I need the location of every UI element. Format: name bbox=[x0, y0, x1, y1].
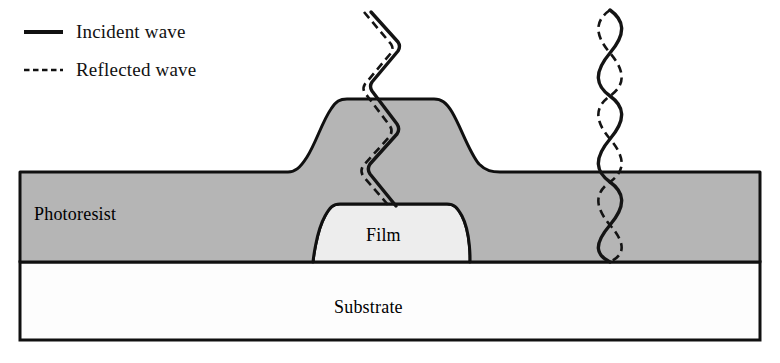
legend bbox=[24, 32, 63, 70]
figure-canvas: Incident wave Reflected wave Photoresist… bbox=[0, 0, 780, 363]
film-layer-label: Film bbox=[366, 225, 401, 246]
substrate-layer-label: Substrate bbox=[334, 297, 403, 318]
legend-incident-wave-label: Incident wave bbox=[76, 21, 186, 43]
photoresist-layer-label: Photoresist bbox=[34, 204, 116, 225]
legend-reflected-wave-label: Reflected wave bbox=[76, 59, 196, 81]
